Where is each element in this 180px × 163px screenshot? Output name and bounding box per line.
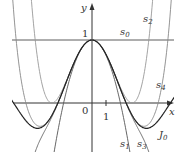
label-J0: J0 [157,129,168,142]
x-axis-label: x [169,106,175,117]
curve-J0 [10,40,176,128]
bessel-diagram: y x 0 1 1 s0 s2 s4 J0 s1 s3 [0,0,180,163]
y-axis-arrow-icon [90,3,95,10]
svg-text:s4: s4 [156,79,166,92]
label-s0: s0 [120,26,130,39]
curve-s1 [10,40,176,163]
svg-text:s3: s3 [137,138,147,151]
y-axis-label: y [80,2,87,13]
label-s3: s3 [137,138,147,151]
curve-s3 [10,40,176,163]
origin-label: 0 [82,105,88,116]
svg-text:s0: s0 [120,26,130,39]
x-tick-label: 1 [103,111,109,122]
y-tick-label: 1 [82,28,88,39]
svg-text:J0: J0 [157,129,168,142]
curve-s2 [10,0,176,103]
label-s4: s4 [156,79,166,92]
